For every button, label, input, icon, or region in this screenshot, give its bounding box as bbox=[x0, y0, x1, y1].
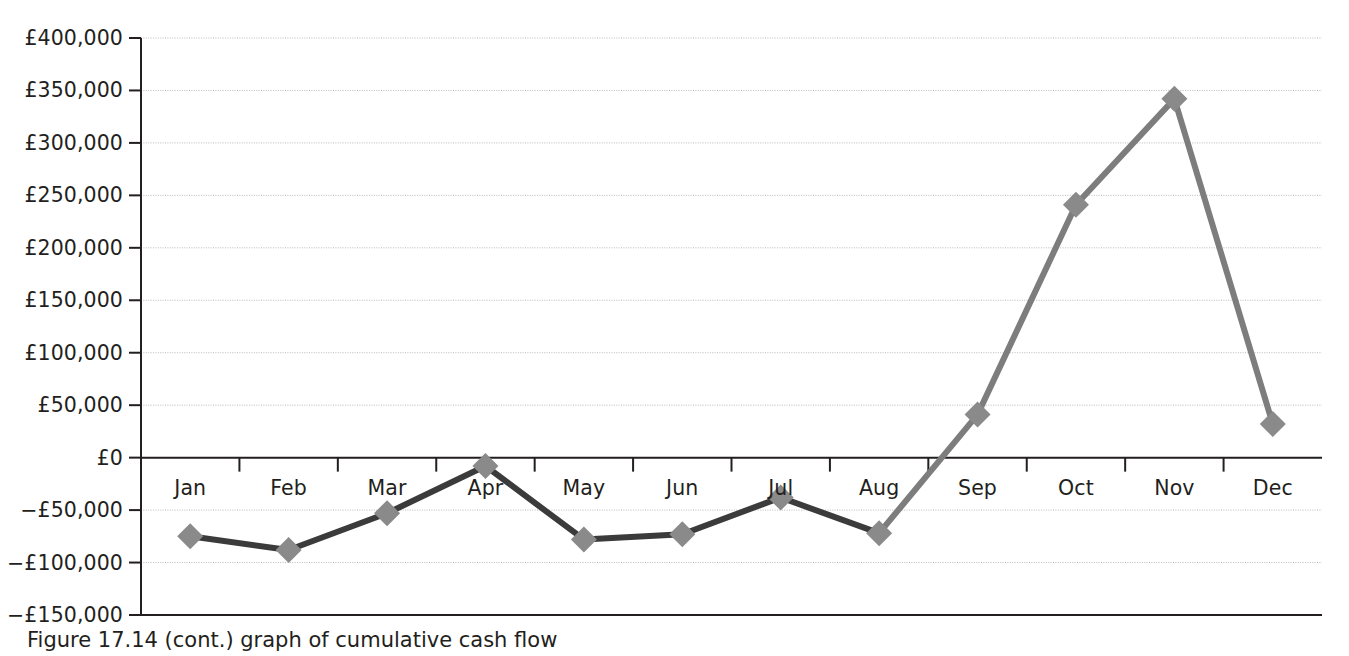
y-axis-ticks bbox=[129, 38, 141, 615]
y-axis-tick-label: −£150,000 bbox=[0, 603, 123, 627]
x-axis-ticks bbox=[239, 458, 1223, 472]
x-axis-tick-label: Jul bbox=[732, 476, 830, 500]
y-axis-tick-label: £0 bbox=[0, 446, 123, 470]
y-axis-tick-label: £150,000 bbox=[0, 288, 123, 312]
x-axis-tick-label: Mar bbox=[338, 476, 436, 500]
x-axis-tick-label: Sep bbox=[928, 476, 1026, 500]
x-axis-tick-label: Oct bbox=[1027, 476, 1125, 500]
line-chart bbox=[0, 0, 1349, 656]
x-axis-tick-label: Dec bbox=[1224, 476, 1322, 500]
x-axis-tick-label: Apr bbox=[436, 476, 534, 500]
x-axis-tick-label: Nov bbox=[1125, 476, 1223, 500]
x-axis-tick-label: Jun bbox=[633, 476, 731, 500]
x-axis-tick-label: May bbox=[535, 476, 633, 500]
y-axis-tick-label: £350,000 bbox=[0, 78, 123, 102]
x-axis-tick-label: Aug bbox=[830, 476, 928, 500]
y-axis-tick-label: −£100,000 bbox=[0, 551, 123, 575]
y-axis-tick-label: £200,000 bbox=[0, 236, 123, 260]
y-axis-tick-label: £250,000 bbox=[0, 183, 123, 207]
x-axis-tick-label: Jan bbox=[141, 476, 239, 500]
y-axis-tick-label: £400,000 bbox=[0, 26, 123, 50]
y-axis-tick-label: £50,000 bbox=[0, 393, 123, 417]
figure-container: £400,000£350,000£300,000£250,000£200,000… bbox=[0, 0, 1349, 656]
y-axis-tick-label: −£50,000 bbox=[0, 498, 123, 522]
x-axis-tick-label: Feb bbox=[239, 476, 337, 500]
y-axis-tick-label: £100,000 bbox=[0, 341, 123, 365]
figure-caption: Figure 17.14 (cont.) graph of cumulative… bbox=[27, 628, 1327, 656]
y-axis-tick-label: £300,000 bbox=[0, 131, 123, 155]
